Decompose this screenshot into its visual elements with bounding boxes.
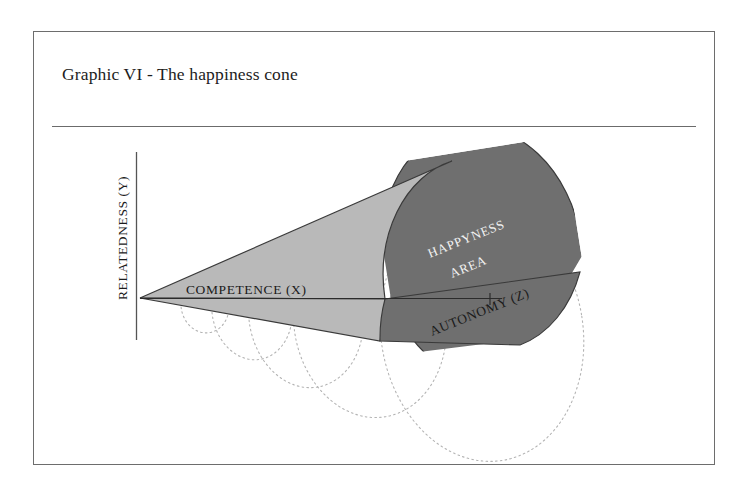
cone-body-lower — [140, 298, 385, 341]
x-axis-label: COMPETENCE (X) — [186, 282, 307, 297]
y-axis-label: RELATEDNESS (Y) — [115, 176, 130, 300]
cone-diagram-svg: RELATEDNESS (Y) COMPETENCE (X) AUTONOMY … — [0, 0, 745, 494]
cone-diagram: RELATEDNESS (Y) COMPETENCE (X) AUTONOMY … — [0, 0, 745, 494]
page-canvas: Graphic VI - The happiness cone — [0, 0, 745, 494]
